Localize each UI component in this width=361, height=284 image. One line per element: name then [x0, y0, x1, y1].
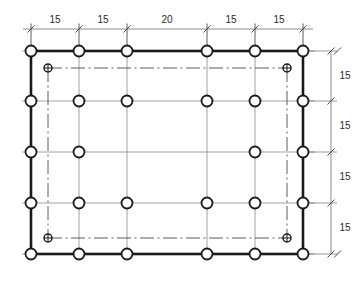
column-marker-r4-c4 — [202, 198, 213, 209]
column-marker-r3-c1 — [26, 147, 37, 158]
right-dim-label-4: 15 — [339, 222, 351, 233]
column-marker-r1-c6 — [298, 46, 309, 57]
top-dim-label-4: 15 — [225, 14, 237, 25]
column-marker-r4-c3 — [122, 198, 133, 209]
column-marker-r1-c1 — [26, 46, 37, 57]
crosshair-marker-3 — [44, 234, 52, 242]
column-marker-r2-c2 — [74, 96, 85, 107]
column-marker-r4-c6 — [298, 198, 309, 209]
drawing-background — [0, 0, 361, 284]
column-marker-r5-c3 — [122, 249, 133, 260]
column-marker-r2-c5 — [250, 96, 261, 107]
column-marker-r5-c5 — [250, 249, 261, 260]
crosshair-marker-4 — [283, 234, 291, 242]
column-marker-r4-c5 — [250, 198, 261, 209]
column-marker-r4-c1 — [26, 198, 37, 209]
column-marker-r3-c2 — [74, 147, 85, 158]
column-marker-r1-c4 — [202, 46, 213, 57]
column-marker-r1-c5 — [250, 46, 261, 57]
right-dim-label-1: 15 — [339, 70, 351, 81]
top-dim-label-2: 15 — [97, 14, 109, 25]
column-marker-r2-c3 — [122, 96, 133, 107]
column-marker-r3-c6 — [298, 147, 309, 158]
structural-grid-drawing: 151520151515151515 — [0, 0, 361, 284]
column-marker-r5-c4 — [202, 249, 213, 260]
top-dim-label-1: 15 — [49, 14, 61, 25]
crosshair-marker-2 — [283, 64, 291, 72]
column-marker-r2-c4 — [202, 96, 213, 107]
top-dim-label-5: 15 — [273, 14, 285, 25]
right-dim-label-2: 15 — [339, 120, 351, 131]
column-marker-r4-c2 — [74, 198, 85, 209]
column-marker-r5-c2 — [74, 249, 85, 260]
column-marker-r5-c6 — [298, 249, 309, 260]
column-marker-r2-c6 — [298, 96, 309, 107]
column-marker-r5-c1 — [26, 249, 37, 260]
column-marker-r3-c5 — [250, 147, 261, 158]
right-dim-label-3: 15 — [339, 171, 351, 182]
column-marker-r1-c2 — [74, 46, 85, 57]
column-marker-r1-c3 — [122, 46, 133, 57]
top-dim-label-3: 20 — [161, 14, 173, 25]
crosshair-marker-1 — [44, 64, 52, 72]
column-marker-r2-c1 — [26, 96, 37, 107]
